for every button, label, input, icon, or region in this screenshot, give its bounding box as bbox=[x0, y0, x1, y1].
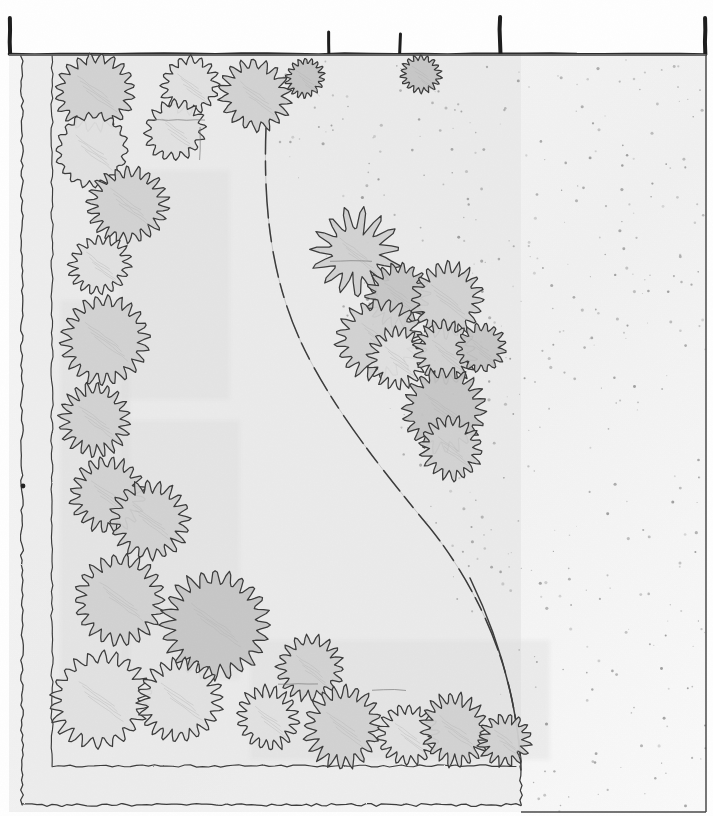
stipple-dot bbox=[673, 65, 676, 68]
stipple-dot bbox=[490, 529, 492, 531]
stipple-dot bbox=[490, 566, 493, 569]
stipple-dot bbox=[422, 239, 424, 241]
stipple-dot bbox=[552, 308, 554, 310]
stipple-dot bbox=[667, 290, 670, 293]
stipple-dot bbox=[325, 131, 326, 132]
stipple-dot bbox=[503, 477, 505, 479]
stipple-dot bbox=[653, 645, 654, 646]
stipple-dot bbox=[573, 377, 576, 380]
stipple-dot bbox=[299, 138, 301, 140]
stipple-dot bbox=[488, 380, 490, 382]
stipple-dot bbox=[684, 804, 687, 807]
stipple-dot bbox=[453, 128, 454, 129]
stipple-dot bbox=[597, 659, 600, 662]
stipple-dot bbox=[669, 321, 672, 324]
stipple-dot bbox=[499, 571, 502, 574]
stipple-dot bbox=[521, 568, 522, 569]
stipple-dot bbox=[554, 530, 555, 531]
stipple-dot bbox=[508, 240, 509, 241]
stipple-dot bbox=[530, 256, 531, 257]
stipple-dot bbox=[367, 171, 369, 173]
stipple-dot bbox=[399, 89, 402, 92]
stipple-dot bbox=[488, 316, 491, 319]
stipple-dot bbox=[644, 793, 645, 794]
stipple-dot bbox=[599, 598, 601, 600]
stipple-dot bbox=[658, 744, 661, 747]
stipple-dot bbox=[616, 317, 619, 320]
stipple-dot bbox=[668, 688, 670, 690]
stipple-dot bbox=[604, 115, 605, 116]
stipple-dot bbox=[694, 551, 696, 553]
stipple-dot bbox=[650, 132, 653, 135]
stipple-dot bbox=[687, 687, 689, 689]
stipple-dot bbox=[289, 141, 292, 144]
stipple-dot bbox=[647, 322, 648, 323]
stipple-dot bbox=[458, 477, 460, 479]
stipple-dot bbox=[614, 274, 616, 276]
stipple-dot bbox=[626, 325, 628, 327]
stipple-dot bbox=[534, 381, 536, 383]
stipple-dot bbox=[473, 263, 474, 264]
stipple-dot bbox=[564, 222, 565, 223]
stipple-dot bbox=[633, 213, 634, 214]
stipple-dot bbox=[470, 492, 471, 493]
stipple-dot bbox=[701, 319, 704, 322]
stipple-dot bbox=[690, 284, 692, 286]
stipple-dot bbox=[628, 629, 629, 630]
stipple-dot bbox=[500, 124, 501, 125]
stipple-dot bbox=[586, 646, 588, 648]
stipple-dot bbox=[418, 118, 420, 120]
stipple-dot bbox=[687, 99, 688, 100]
stipple-dot bbox=[666, 375, 667, 376]
stipple-dot bbox=[621, 164, 624, 167]
stipple-dot bbox=[325, 61, 327, 63]
stipple-dot bbox=[635, 237, 637, 239]
stipple-dot bbox=[508, 553, 509, 554]
stipple-dot bbox=[697, 271, 699, 273]
stipple-dot bbox=[540, 596, 542, 598]
stipple-dot bbox=[469, 122, 470, 123]
stipple-dot bbox=[528, 241, 531, 244]
stipple-dot bbox=[576, 84, 578, 86]
stipple-dot bbox=[346, 314, 348, 316]
stipple-dot bbox=[694, 222, 697, 225]
stipple-dot bbox=[647, 290, 650, 293]
stipple-dot bbox=[423, 175, 425, 177]
stipple-dot bbox=[678, 562, 681, 565]
stipple-dot bbox=[548, 408, 550, 410]
stipple-dot bbox=[435, 522, 437, 524]
stipple-dot bbox=[498, 258, 501, 261]
stipple-dot bbox=[647, 593, 650, 596]
stipple-dot bbox=[592, 122, 594, 124]
stipple-dot bbox=[622, 247, 625, 250]
stipple-dot bbox=[463, 217, 464, 218]
stipple-dot bbox=[347, 106, 349, 108]
stipple-dot bbox=[679, 329, 682, 332]
stipple-dot bbox=[289, 156, 290, 157]
stipple-dot bbox=[483, 534, 484, 535]
stipple-dot bbox=[691, 757, 693, 759]
stipple-dot bbox=[380, 124, 383, 127]
stipple-dot bbox=[684, 344, 687, 347]
stipple-dot bbox=[670, 604, 671, 605]
stipple-dot bbox=[651, 182, 653, 184]
stipple-dot bbox=[665, 635, 667, 637]
stipple-dot bbox=[512, 286, 514, 288]
stipple-dot bbox=[589, 156, 592, 159]
stipple-dot bbox=[534, 470, 535, 471]
stipple-dot bbox=[577, 185, 578, 186]
stipple-dot bbox=[623, 332, 625, 334]
stipple-dot bbox=[700, 758, 701, 759]
stipple-dot bbox=[677, 86, 679, 88]
stipple-dot bbox=[644, 279, 646, 281]
stipple-dot bbox=[607, 789, 609, 791]
stipple-dot bbox=[361, 196, 364, 199]
stipple-dot bbox=[562, 669, 564, 671]
stipple-dot bbox=[537, 797, 540, 800]
stipple-dot bbox=[599, 237, 601, 239]
stipple-dot bbox=[485, 262, 486, 263]
stipple-dot bbox=[539, 427, 540, 428]
stipple-dot bbox=[342, 305, 344, 307]
stipple-dot bbox=[342, 118, 344, 120]
stipple-dot bbox=[460, 111, 462, 113]
